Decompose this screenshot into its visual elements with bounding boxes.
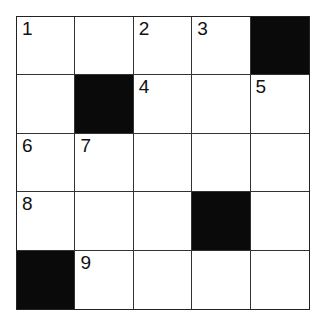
- crossword-cell[interactable]: [134, 134, 192, 192]
- black-square: [17, 251, 75, 309]
- clue-number: 1: [22, 19, 33, 38]
- crossword-grid: 123456789: [16, 16, 310, 310]
- crossword-cell[interactable]: 8: [17, 192, 75, 250]
- crossword-cell[interactable]: 1: [17, 17, 75, 75]
- crossword-cell[interactable]: [17, 75, 75, 133]
- clue-number: 8: [22, 194, 33, 213]
- black-square: [251, 17, 309, 75]
- crossword-cell[interactable]: [75, 17, 133, 75]
- black-square: [192, 192, 250, 250]
- crossword-cell[interactable]: [251, 192, 309, 250]
- crossword-cell[interactable]: [192, 134, 250, 192]
- crossword-cell[interactable]: [192, 251, 250, 309]
- black-square: [75, 75, 133, 133]
- clue-number: 4: [139, 77, 150, 96]
- clue-number: 2: [139, 19, 150, 38]
- crossword-cell[interactable]: [75, 192, 133, 250]
- clue-number: 5: [256, 77, 267, 96]
- crossword-cell[interactable]: [192, 75, 250, 133]
- crossword-cell[interactable]: [251, 134, 309, 192]
- crossword-cell[interactable]: [134, 251, 192, 309]
- clue-number: 9: [80, 253, 91, 272]
- crossword-cell[interactable]: [251, 251, 309, 309]
- clue-number: 6: [22, 136, 33, 155]
- clue-number: 7: [80, 136, 91, 155]
- crossword-cell[interactable]: 7: [75, 134, 133, 192]
- crossword-cell[interactable]: 9: [75, 251, 133, 309]
- crossword-cell[interactable]: [134, 192, 192, 250]
- crossword-cell[interactable]: 5: [251, 75, 309, 133]
- crossword-cell[interactable]: 4: [134, 75, 192, 133]
- crossword-cell[interactable]: 2: [134, 17, 192, 75]
- clue-number: 3: [197, 19, 208, 38]
- crossword-cell[interactable]: 6: [17, 134, 75, 192]
- crossword-cell[interactable]: 3: [192, 17, 250, 75]
